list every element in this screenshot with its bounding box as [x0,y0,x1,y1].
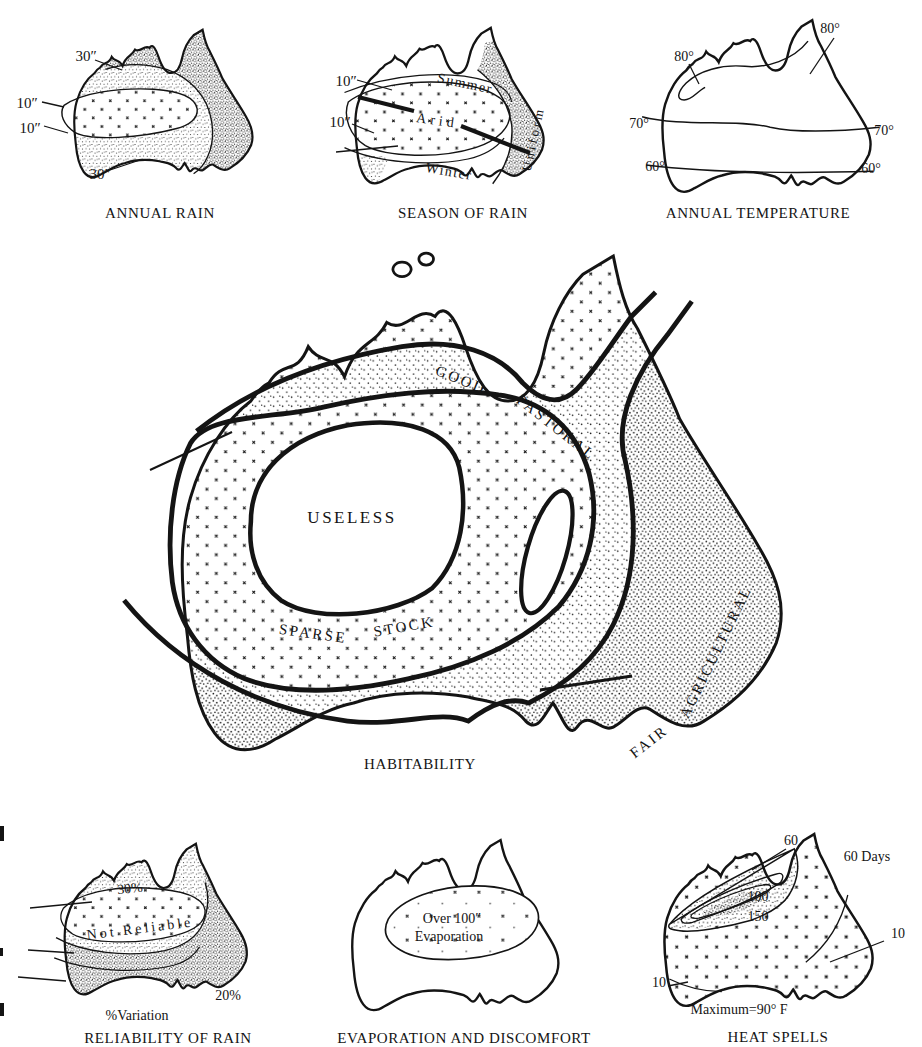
percent-variation-label: %Variation [106,1009,169,1023]
map-annual-temperature [642,20,879,192]
temp-60-w-label: 60° [645,160,665,174]
annual-rain-caption: ANNUAL RAIN [105,206,215,221]
heat-60-label: 60 [784,834,798,848]
evaporation-caption: EVAPORATION AND DISCOMFORT [337,1031,591,1046]
heat-spells-caption: HEAT SPELLS [728,1030,829,1045]
heat-10-west-label: 10 [652,976,666,990]
heat-150-label: 150 [748,910,769,924]
temp-80-ne-label: 80° [820,22,840,36]
rain-30-top-label: 30″ [75,49,96,64]
season-10-upper-label: 10″ [335,74,356,89]
rain-10-lower-label: 10″ [19,121,40,136]
variation-20-label: 20% [215,989,241,1003]
reliability-caption: RELIABILITY OF RAIN [84,1031,252,1046]
evaporation-label: Evaporation [415,930,483,944]
coastline [662,20,870,192]
variation-30-label: 30% [117,881,144,898]
islets [393,253,433,277]
temp-70-e-label: 70° [874,124,894,138]
rain-10-upper-label: 10″ [16,96,37,111]
scan-artifacts [0,826,4,1016]
over-100-label: Over 100″ [423,912,481,926]
temp-60-e-label: 60° [861,162,881,176]
temp-70-w-label: 70° [629,117,649,131]
heat-100-label: 100 [748,890,769,904]
heat-60days-label: 60 Days [844,850,890,864]
figure-page: 30″ 10″ 10″ 30″ ANNUAL RAIN 10″ 10″ Summ… [0,0,922,1047]
map-habitability [82,214,858,839]
temp-80-nw-label: 80° [674,50,694,64]
heat-10-east-label: 10 [891,927,905,941]
season-10-lower-label: 10″ [329,115,350,130]
annual-temperature-caption: ANNUAL TEMPERATURE [666,206,851,221]
useless-label: USELESS [307,509,396,526]
habitability-caption: HABITABILITY [364,757,476,772]
season-of-rain-caption: SEASON OF RAIN [398,206,528,221]
rain-30-bottom-label: 30″ [89,167,110,182]
heat-maximum-label: Maximum=90° F [690,1003,787,1017]
